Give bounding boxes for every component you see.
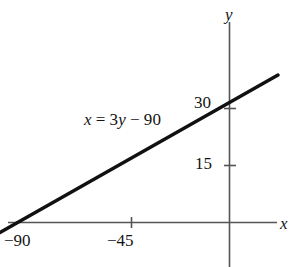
equation-variable: y <box>118 110 126 129</box>
equation-annotation: x=3y−90 <box>84 111 161 128</box>
equation-constant: 90 <box>144 110 161 129</box>
equation-coefficient: 3 <box>110 110 119 129</box>
x-axis-label: x <box>280 215 288 232</box>
x-tick-label-neg45: −45 <box>107 232 134 249</box>
y-tick-label-30: 30 <box>194 94 211 111</box>
equation-lhs: x <box>84 110 92 129</box>
y-tick-label-15: 15 <box>195 155 212 172</box>
equation-minus: − <box>130 110 140 129</box>
y-axis-label: y <box>225 6 233 23</box>
data-line <box>0 75 278 233</box>
equation-equals: = <box>96 110 106 129</box>
line-graph-figure: y x 30 15 −90 −45 x=3y−90 <box>0 0 292 267</box>
x-tick-label-neg90: −90 <box>4 232 31 249</box>
plot-canvas <box>0 0 292 267</box>
